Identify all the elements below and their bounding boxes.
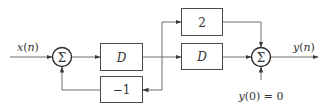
feedback-gain-block: −1 — [101, 77, 143, 103]
delay-block-right: D — [182, 44, 223, 70]
delay-block-left: D — [101, 44, 143, 71]
forward-gain-block: 2 — [182, 9, 223, 36]
output-label: y(n) — [292, 41, 315, 54]
initial-condition-label: y(0) = 0 — [237, 90, 283, 103]
gain-to-summer-arrow — [223, 22, 262, 47]
right-summer-symbol: Σ — [257, 51, 265, 65]
forward-gain-label: 2 — [198, 16, 206, 30]
feedback-arrow — [62, 67, 101, 90]
delay-left-label: D — [116, 51, 127, 65]
feedback-gain-label: −1 — [113, 83, 131, 97]
right-summer: Σ — [252, 48, 271, 67]
delay-right-label: D — [196, 50, 207, 64]
left-summer-symbol: Σ — [58, 51, 66, 65]
block-diagram: x(n) Σ D −1 2 D Σ y(0) — [0, 0, 327, 112]
input-label: x(n) — [17, 41, 39, 54]
left-summer: Σ — [53, 48, 72, 67]
